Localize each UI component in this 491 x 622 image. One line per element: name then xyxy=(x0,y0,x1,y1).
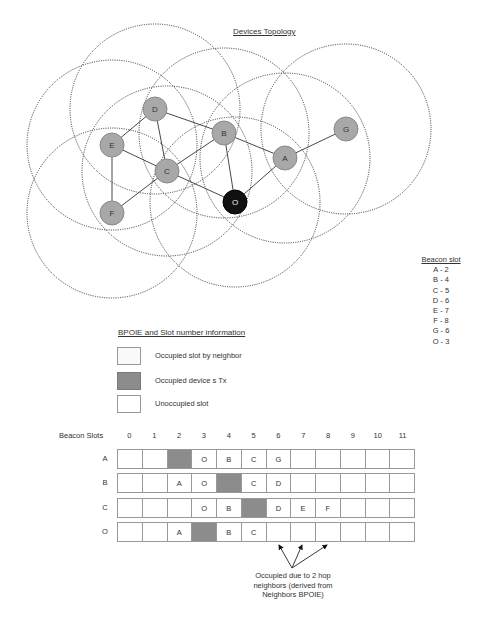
two-hop-arrows xyxy=(0,0,491,622)
two-hop-annotation: Occupied due to 2 hop neighbors (derived… xyxy=(238,571,348,600)
annotation-line: Occupied due to 2 hop xyxy=(238,571,348,581)
annotation-line: Neighbors BPOIE) xyxy=(238,590,348,600)
annotation-line: neighbors (derived from xyxy=(238,581,348,591)
arrow-icon xyxy=(279,545,292,568)
